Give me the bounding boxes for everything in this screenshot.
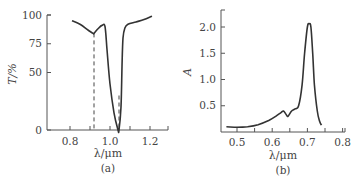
chart-a-y-axis-label: T/% [6, 63, 19, 85]
y-tick-label: 50 [29, 66, 42, 78]
figure: 05075100 0.81.01.2 T/% λ/μm (a) 0.51.01.… [0, 0, 357, 184]
chart-b-panel-label: (b) [276, 164, 291, 176]
chart-a-x-ticks: 0.81.01.2 [62, 126, 159, 147]
x-tick-label: 0.8 [334, 136, 351, 148]
chart-a-x-axis-label: λ/μm [94, 147, 123, 160]
chart-b-x-axis [221, 128, 345, 132]
x-tick-label: 0.6 [264, 136, 281, 148]
chart-b-y-axis [221, 10, 225, 132]
y-tick-label: 2.0 [199, 21, 216, 33]
x-tick-label: 0.5 [229, 136, 246, 148]
chart-b-x-axis-label: λ/μm [269, 149, 298, 162]
x-tick-label: 1.0 [102, 135, 119, 147]
x-tick-label: 0.8 [62, 135, 79, 147]
x-tick-label: 1.2 [142, 135, 159, 147]
chart-a: 05075100 0.81.01.2 T/% λ/μm (a) [6, 9, 168, 175]
y-tick-label: 1.0 [199, 73, 216, 85]
y-tick-label: 75 [29, 37, 42, 49]
chart-b-x-ticks: 0.50.60.70.8 [229, 128, 351, 148]
y-tick-label: 100 [22, 9, 42, 21]
y-tick-label: 0.5 [199, 99, 216, 111]
y-tick-label: 0 [35, 124, 42, 136]
chart-a-panel-label: (a) [101, 162, 115, 174]
y-tick-label: 1.5 [199, 47, 216, 59]
chart-b-absorbance-curve [226, 24, 321, 128]
chart-b: 0.51.01.52.0 0.50.60.70.8 A λ/μm (b) [181, 10, 351, 176]
chart-b-y-axis-label: A [181, 68, 194, 77]
x-tick-label: 0.7 [299, 136, 316, 148]
chart-a-transmission-curve [72, 16, 152, 132]
